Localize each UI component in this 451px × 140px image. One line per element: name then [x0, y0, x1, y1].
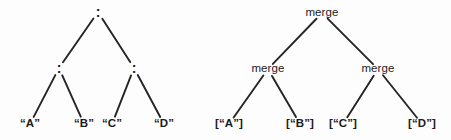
edge-group	[34, 19, 417, 118]
tree-edge	[62, 75, 80, 116]
tree-edge	[273, 19, 317, 64]
tree-leaf-node: “D”	[154, 118, 174, 130]
tree-edge	[63, 19, 93, 63]
tree-edge	[272, 76, 296, 117]
tree-leaf-node: “A”	[20, 118, 40, 130]
tree-leaf-node: “B”	[74, 118, 94, 130]
tree-operator-node: :	[57, 61, 62, 75]
tree-operator-node: :	[132, 61, 137, 75]
tree-edge	[234, 76, 264, 118]
tree-function-node: merge	[361, 63, 394, 75]
tree-operator-node: :	[96, 5, 101, 19]
tree-edge	[34, 75, 56, 117]
tree-leaf-node: “C”	[102, 118, 122, 130]
tree-edge	[383, 75, 417, 118]
tree-leaf-node: [“B”]	[286, 118, 314, 130]
tree-edge	[115, 75, 131, 116]
tree-leaf-node: [“A”]	[215, 118, 243, 130]
tree-function-node: merge	[305, 7, 338, 19]
tree-edge	[328, 19, 373, 64]
tree-diagram-figure: :::“A”“B”“C”“D”mergemergemerge[“A”][“B”]…	[0, 0, 451, 140]
tree-edge	[347, 76, 373, 118]
tree-leaf-node: [“C”]	[329, 118, 357, 130]
tree-edge	[138, 75, 160, 117]
tree-leaf-node: [“D”]	[408, 118, 436, 130]
tree-edge	[102, 19, 130, 62]
tree-function-node: merge	[251, 63, 284, 75]
